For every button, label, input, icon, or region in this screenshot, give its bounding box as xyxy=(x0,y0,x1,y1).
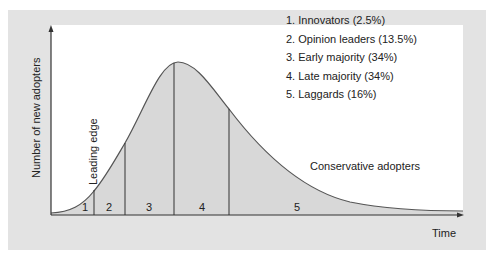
leading-edge-label: Leading edge xyxy=(87,118,99,185)
legend-item: 2. Opinion leaders (13.5%) xyxy=(286,30,417,49)
adoption-curve-chart xyxy=(0,0,499,259)
legend-item: 3. Early majority (34%) xyxy=(286,48,417,67)
legend-item: 5. Laggards (16%) xyxy=(286,85,417,104)
y-axis-label: Number of new adopters xyxy=(30,58,42,178)
x-axis-label: Time xyxy=(432,227,456,239)
legend: 1. Innovators (2.5%) 2. Opinion leaders … xyxy=(286,11,417,104)
segment-number-5: 5 xyxy=(294,201,300,213)
legend-item: 4. Late majority (34%) xyxy=(286,67,417,86)
segment-number-3: 3 xyxy=(146,201,152,213)
legend-item: 1. Innovators (2.5%) xyxy=(286,11,417,30)
conservative-adopters-label: Conservative adopters xyxy=(310,160,420,172)
segment-number-4: 4 xyxy=(199,201,205,213)
segment-number-1: 1 xyxy=(82,201,88,213)
segment-number-2: 2 xyxy=(106,201,112,213)
